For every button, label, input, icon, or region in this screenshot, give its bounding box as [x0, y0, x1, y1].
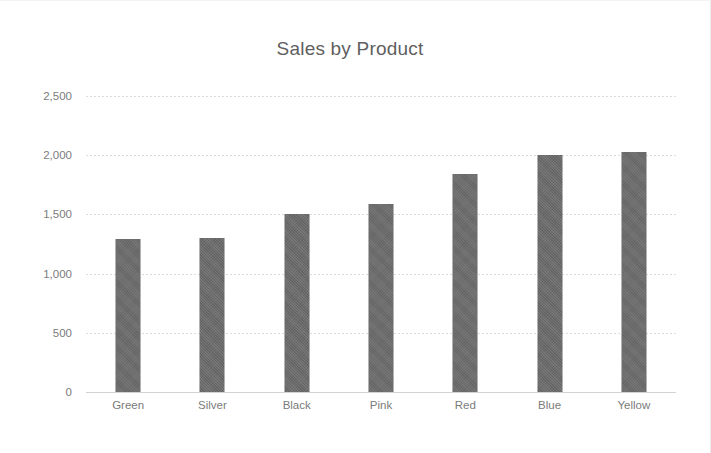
- bar-blue: [537, 155, 562, 392]
- y-axis-tick-label: 1,000: [43, 268, 72, 280]
- x-axis-tick-label: Yellow: [617, 399, 650, 411]
- chart-title: Sales by Product: [0, 38, 700, 60]
- y-axis-tick-label: 0: [66, 386, 72, 398]
- bar-pink: [369, 204, 394, 392]
- y-axis-tick-label: 500: [53, 327, 72, 339]
- x-axis-line: [86, 392, 676, 393]
- y-axis-tick-labels: 05001,0001,5002,0002,500: [0, 96, 86, 392]
- bar-yellow: [621, 152, 646, 392]
- bar-chart-figure: Sales by Product 05001,0001,5002,0002,50…: [0, 0, 711, 453]
- plot-area: [86, 96, 676, 392]
- y-axis-tick-label: 1,500: [43, 208, 72, 220]
- x-axis-tick-label: Silver: [198, 399, 227, 411]
- y-axis-tick-label: 2,500: [43, 90, 72, 102]
- x-axis-tick-label: Red: [455, 399, 476, 411]
- x-axis-tick-label: Black: [283, 399, 311, 411]
- y-axis-tick-label: 2,000: [43, 149, 72, 161]
- x-axis-tick-label: Blue: [538, 399, 561, 411]
- gridline: [86, 96, 676, 97]
- bar-black: [284, 214, 309, 392]
- gridline: [86, 155, 676, 156]
- bar-green: [116, 239, 141, 392]
- bar-silver: [200, 238, 225, 392]
- x-axis-tick-label: Green: [112, 399, 144, 411]
- x-axis-tick-label: Pink: [370, 399, 392, 411]
- x-axis-tick-labels: GreenSilverBlackPinkRedBlueYellow: [86, 399, 676, 423]
- bar-red: [453, 174, 478, 392]
